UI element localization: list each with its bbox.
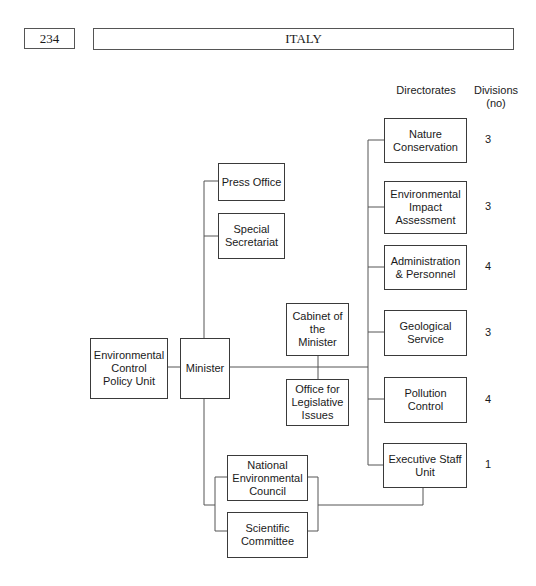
cabinet-of-minister-box: Cabinet of the Minister — [286, 303, 349, 356]
directorates-heading: Directorates — [386, 84, 466, 97]
directorate-executive-staff-unit: Executive Staff Unit — [383, 443, 467, 488]
national-environmental-council-box: National Environmental Council — [227, 455, 308, 501]
divisions-count: 3 — [478, 133, 498, 145]
environmental-control-policy-unit-box: Environmental Control Policy Unit — [90, 338, 168, 399]
divisions-count: 4 — [478, 393, 498, 405]
office-legislative-issues-box: Office for Legislative Issues — [286, 379, 349, 426]
divisions-count: 3 — [478, 200, 498, 212]
directorate-environmental-impact-assessment: Environmental Impact Assessment — [384, 181, 467, 234]
press-office-box: Press Office — [218, 163, 285, 201]
directorate-administration-personnel: Administration & Personnel — [384, 245, 467, 290]
divisions-count: 3 — [478, 326, 498, 338]
directorate-geological-service: Geological Service — [384, 310, 467, 356]
directorate-pollution-control: Pollution Control — [384, 377, 467, 423]
directorate-nature-conservation: Nature Conservation — [384, 118, 467, 163]
divisions-heading: Divisions (no) — [466, 84, 526, 110]
scientific-committee-box: Scientific Committee — [227, 512, 308, 558]
special-secretariat-box: Special Secretariat — [218, 213, 285, 259]
minister-box: Minister — [180, 338, 230, 399]
divisions-count: 1 — [478, 458, 498, 470]
divisions-count: 4 — [478, 260, 498, 272]
